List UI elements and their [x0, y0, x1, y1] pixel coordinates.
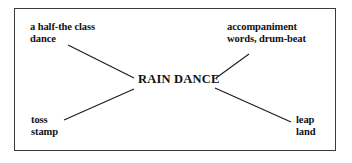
branch-label-top-left: a half-the class dance [30, 21, 95, 44]
connector-top-left [68, 45, 134, 78]
branch-label-top-left-line-2: dance [30, 33, 95, 45]
center-node-label: RAIN DANCE [138, 74, 220, 86]
branch-label-top-right: accompaniment words, drum-beat [227, 21, 306, 44]
branch-label-bottom-right: leap land [296, 114, 315, 137]
connector-bottom-right [215, 88, 291, 122]
branch-label-bottom-left-line-1: toss [31, 114, 58, 126]
center-node-text: RAIN DANCE [138, 74, 220, 86]
branch-label-bottom-left: toss stamp [31, 114, 58, 137]
connector-top-right [216, 54, 249, 78]
branch-label-top-right-line-1: accompaniment [227, 21, 306, 33]
diagram-canvas: a half-the class dance accompaniment wor… [0, 0, 352, 163]
branch-label-top-right-line-2: words, drum-beat [227, 33, 306, 45]
connector-bottom-left [64, 89, 134, 120]
branch-label-bottom-right-line-2: land [296, 126, 315, 138]
branch-label-bottom-left-line-2: stamp [31, 126, 58, 138]
branch-label-top-left-line-1: a half-the class [30, 21, 95, 33]
branch-label-bottom-right-line-1: leap [296, 114, 315, 126]
